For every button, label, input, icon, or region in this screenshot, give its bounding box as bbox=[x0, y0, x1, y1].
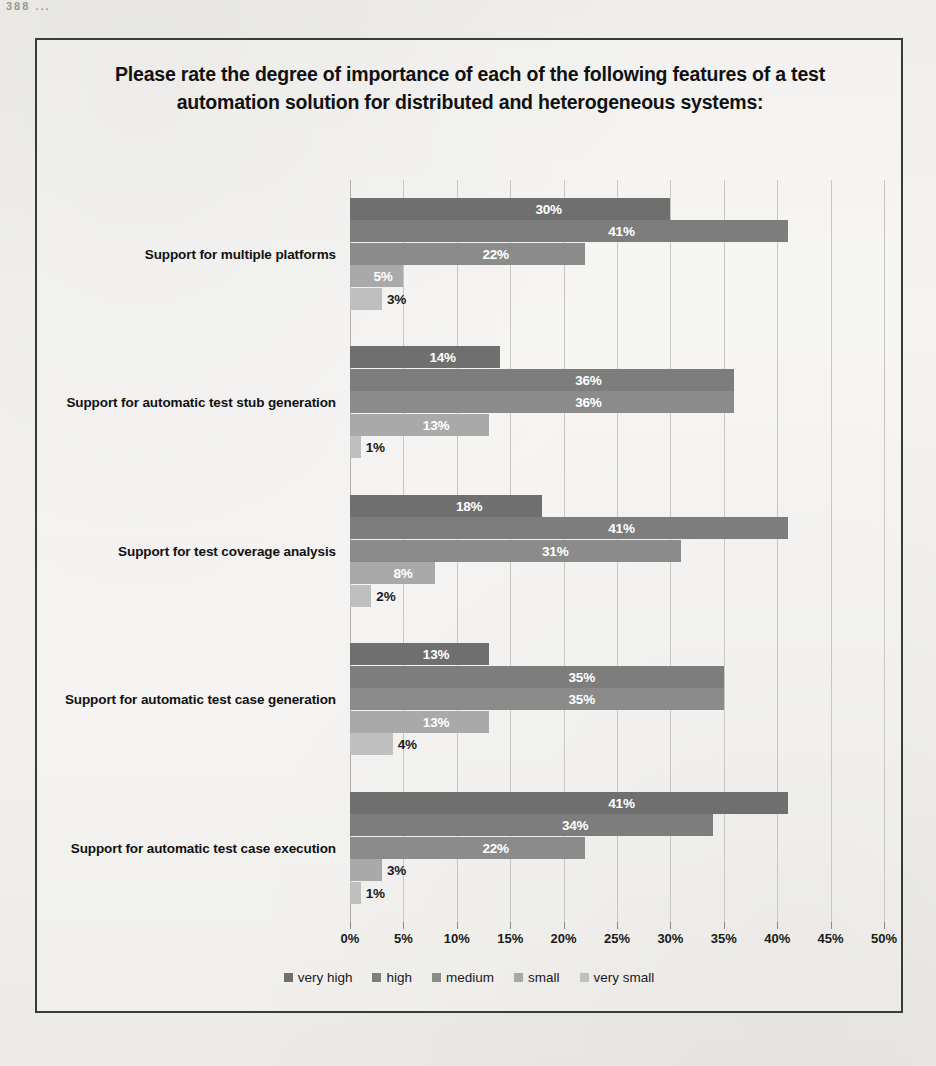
x-tick-label: 20% bbox=[551, 931, 577, 946]
bar-medium[interactable] bbox=[350, 243, 585, 265]
bar-high[interactable] bbox=[350, 369, 734, 391]
bar-row[interactable]: 35% bbox=[350, 666, 884, 688]
category-label: Support for automatic test case executio… bbox=[71, 840, 336, 855]
chart-frame: Please rate the degree of importance of … bbox=[35, 38, 903, 1013]
bar-value-label: 36% bbox=[575, 395, 601, 410]
bar-group: 41%34%22%Support for automatic test case… bbox=[350, 774, 884, 922]
bar-small[interactable] bbox=[350, 859, 382, 881]
bar-row[interactable]: 35%Support for automatic test case gener… bbox=[350, 688, 884, 710]
x-tick bbox=[831, 922, 832, 929]
legend-label: small bbox=[528, 970, 560, 985]
bar-row[interactable]: 3% bbox=[350, 288, 884, 310]
bar-value-label: 1% bbox=[366, 885, 385, 900]
bar-row[interactable]: 13% bbox=[350, 643, 884, 665]
bar-very-high[interactable] bbox=[350, 792, 788, 814]
x-tick bbox=[670, 922, 671, 929]
bar-row[interactable]: 41% bbox=[350, 517, 884, 539]
legend-item-medium[interactable]: medium bbox=[432, 970, 494, 985]
x-tick bbox=[510, 922, 511, 929]
category-label: Support for automatic test case generati… bbox=[65, 692, 336, 707]
chart-legend: very highhighmediumsmallvery small bbox=[37, 970, 901, 985]
bar-very-small[interactable] bbox=[350, 882, 361, 904]
bar-very-high[interactable] bbox=[350, 198, 670, 220]
bar-row[interactable]: 36%Support for automatic test stub gener… bbox=[350, 391, 884, 413]
x-tick-label: 40% bbox=[764, 931, 790, 946]
legend-label: very high bbox=[298, 970, 353, 985]
x-axis: 0%5%10%15%20%25%30%35%40%45%50% bbox=[350, 922, 884, 952]
bar-row[interactable]: 4% bbox=[350, 733, 884, 755]
bar-very-small[interactable] bbox=[350, 436, 361, 458]
category-label: Support for automatic test stub generati… bbox=[66, 395, 336, 410]
bar-row[interactable]: 41% bbox=[350, 792, 884, 814]
bar-value-label: 14% bbox=[429, 350, 455, 365]
bar-value-label: 41% bbox=[608, 224, 634, 239]
bar-group: 18%41%31%Support for test coverage analy… bbox=[350, 477, 884, 625]
bar-row[interactable]: 14% bbox=[350, 346, 884, 368]
bar-value-label: 3% bbox=[387, 863, 406, 878]
x-tick-label: 10% bbox=[444, 931, 470, 946]
bar-value-label: 8% bbox=[393, 566, 412, 581]
bar-value-label: 31% bbox=[542, 543, 568, 558]
bar-very-high[interactable] bbox=[350, 346, 500, 368]
bar-value-label: 13% bbox=[423, 714, 449, 729]
x-tick-label: 5% bbox=[394, 931, 413, 946]
bar-row[interactable]: 36% bbox=[350, 369, 884, 391]
x-tick bbox=[884, 922, 885, 929]
bar-high[interactable] bbox=[350, 220, 788, 242]
bar-value-label: 30% bbox=[535, 201, 561, 216]
bar-row[interactable]: 34% bbox=[350, 814, 884, 836]
bar-high[interactable] bbox=[350, 814, 713, 836]
bar-row[interactable]: 30% bbox=[350, 198, 884, 220]
bar-row[interactable]: 13% bbox=[350, 711, 884, 733]
bar-value-label: 41% bbox=[608, 795, 634, 810]
page-bleed-text: 388 ... bbox=[0, 0, 936, 18]
x-tick-label: 0% bbox=[341, 931, 360, 946]
gridline-50 bbox=[884, 180, 885, 922]
bar-value-label: 22% bbox=[482, 840, 508, 855]
bar-group: 30%41%22%Support for multiple platforms5… bbox=[350, 180, 884, 328]
bar-value-label: 18% bbox=[456, 498, 482, 513]
bar-high[interactable] bbox=[350, 517, 788, 539]
chart-title: Please rate the degree of importance of … bbox=[77, 60, 863, 116]
bar-row[interactable]: 13% bbox=[350, 414, 884, 436]
bar-very-high[interactable] bbox=[350, 643, 489, 665]
bar-value-label: 2% bbox=[376, 588, 395, 603]
bar-very-small[interactable] bbox=[350, 585, 371, 607]
bar-high[interactable] bbox=[350, 666, 724, 688]
x-tick bbox=[777, 922, 778, 929]
bar-very-small[interactable] bbox=[350, 733, 393, 755]
bar-row[interactable]: 22%Support for automatic test case execu… bbox=[350, 837, 884, 859]
bar-small[interactable] bbox=[350, 414, 489, 436]
bar-value-label: 36% bbox=[575, 372, 601, 387]
legend-swatch-icon bbox=[432, 973, 441, 982]
bar-row[interactable]: 8% bbox=[350, 562, 884, 584]
bar-medium[interactable] bbox=[350, 540, 681, 562]
x-tick bbox=[617, 922, 618, 929]
bar-value-label: 22% bbox=[482, 246, 508, 261]
bar-medium[interactable] bbox=[350, 688, 724, 710]
bar-value-label: 41% bbox=[608, 521, 634, 536]
legend-item-small[interactable]: small bbox=[514, 970, 560, 985]
legend-item-very-high[interactable]: very high bbox=[284, 970, 353, 985]
bar-very-high[interactable] bbox=[350, 495, 542, 517]
bar-row[interactable]: 22%Support for multiple platforms bbox=[350, 243, 884, 265]
x-tick-label: 25% bbox=[604, 931, 630, 946]
bar-very-small[interactable] bbox=[350, 288, 382, 310]
bar-row[interactable]: 5% bbox=[350, 265, 884, 287]
bar-row[interactable]: 1% bbox=[350, 436, 884, 458]
bar-row[interactable]: 1% bbox=[350, 882, 884, 904]
bar-row[interactable]: 2% bbox=[350, 585, 884, 607]
bar-row[interactable]: 31%Support for test coverage analysis bbox=[350, 540, 884, 562]
x-tick-label: 15% bbox=[497, 931, 523, 946]
bar-row[interactable]: 18% bbox=[350, 495, 884, 517]
bar-small[interactable] bbox=[350, 711, 489, 733]
bar-row[interactable]: 41% bbox=[350, 220, 884, 242]
bar-row[interactable]: 3% bbox=[350, 859, 884, 881]
bar-value-label: 4% bbox=[398, 737, 417, 752]
bar-value-label: 35% bbox=[569, 669, 595, 684]
bar-medium[interactable] bbox=[350, 837, 585, 859]
bar-medium[interactable] bbox=[350, 391, 734, 413]
legend-item-high[interactable]: high bbox=[372, 970, 412, 985]
legend-item-very-small[interactable]: very small bbox=[580, 970, 655, 985]
plot-area: 30%41%22%Support for multiple platforms5… bbox=[350, 180, 884, 922]
